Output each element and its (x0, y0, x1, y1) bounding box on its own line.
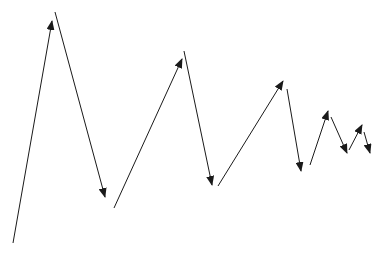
arrow-5-icon (218, 81, 283, 186)
arrow-1-icon (13, 21, 52, 243)
zigzag-arrow-diagram (0, 0, 387, 257)
arrow-9-icon (349, 125, 362, 150)
arrow-2-icon (55, 12, 105, 197)
arrow-10-icon (364, 132, 370, 153)
arrow-3-icon (114, 59, 182, 208)
arrow-7-icon (310, 111, 328, 165)
arrow-8-icon (331, 117, 347, 153)
arrow-4-icon (184, 51, 212, 185)
arrow-group (13, 12, 370, 243)
arrow-6-icon (287, 89, 301, 171)
